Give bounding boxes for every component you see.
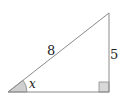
right-angle-marker [99, 82, 109, 92]
opposite-side-label: 5 [110, 47, 118, 62]
angle-label: x [29, 77, 36, 91]
triangle [8, 13, 109, 92]
triangle-diagram: 8 5 x [0, 0, 127, 106]
hypotenuse-label: 8 [47, 43, 55, 58]
